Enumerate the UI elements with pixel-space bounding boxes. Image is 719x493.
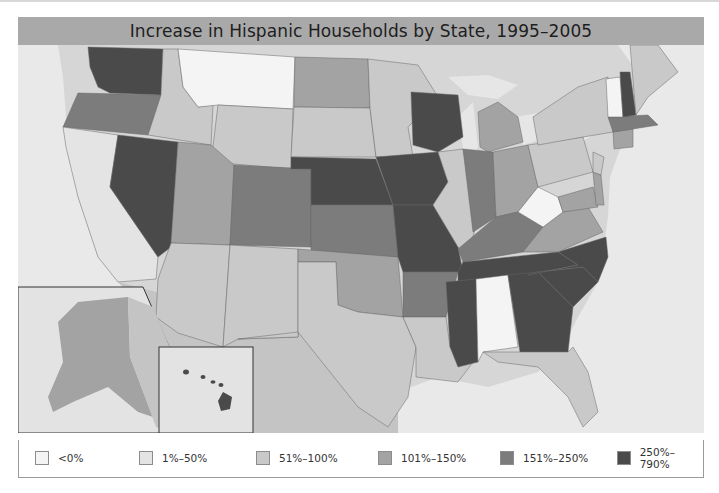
legend-item-1: 1%–50% [139, 450, 207, 466]
legend-swatch [256, 451, 270, 465]
state-WA [88, 47, 163, 95]
title-bar: Increase in Hispanic Households by State… [18, 17, 704, 45]
state-CT [613, 129, 633, 149]
legend-item-4: 151%–250% [500, 450, 588, 466]
state-NM [223, 245, 298, 347]
legend-item-3: 101%–150% [378, 450, 466, 466]
legend-swatch [617, 451, 631, 465]
state-CO [230, 165, 311, 247]
state-UT [171, 142, 234, 245]
state-ND [294, 57, 370, 108]
state-KS [311, 205, 398, 257]
state-SD [291, 107, 376, 157]
state-VT [606, 77, 623, 117]
map-title: Increase in Hispanic Households by State… [130, 21, 592, 41]
legend-item-5: 250%–790% [617, 450, 703, 466]
legend-swatch [378, 451, 392, 465]
map-figure: Increase in Hispanic Households by State… [18, 17, 704, 433]
legend-swatch [139, 451, 153, 465]
legend: <0% 1%–50% 51%–100% 101%–150% 151%–250% … [18, 440, 704, 478]
top-rule [0, 0, 719, 2]
legend-swatch [35, 451, 49, 465]
state-MT [178, 49, 295, 109]
us-map [18, 17, 704, 433]
legend-item-0: <0% [35, 450, 83, 466]
legend-item-2: 51%–100% [256, 450, 338, 466]
legend-swatch [500, 451, 514, 465]
